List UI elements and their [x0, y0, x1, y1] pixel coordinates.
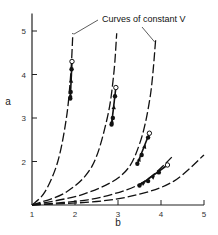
- y-tick-label: 3: [22, 114, 27, 123]
- x-tick-label: 2: [73, 210, 78, 219]
- y-tick-label: 2: [22, 158, 27, 167]
- annotation-text: Curves of constant V: [102, 14, 186, 24]
- filled-point: [146, 179, 150, 183]
- trajectories: [68, 59, 170, 187]
- x-axis-label: b: [115, 217, 121, 228]
- arrow-icon: [69, 79, 73, 83]
- constant-v-curve-2: [32, 33, 117, 205]
- y-tick-label: 5: [22, 27, 27, 36]
- filled-point: [157, 170, 161, 174]
- y-axis-label: a: [5, 96, 11, 107]
- annotation: Curves of constant V: [74, 14, 186, 42]
- filled-point: [137, 183, 141, 187]
- y-tick-label: 4: [22, 71, 27, 80]
- x-tick-label: 4: [159, 210, 164, 219]
- constant-v-curve-4: [32, 157, 172, 205]
- open-point: [165, 163, 169, 167]
- open-point: [147, 131, 151, 135]
- filled-point: [139, 153, 143, 157]
- annotation-pointer: [74, 20, 98, 34]
- x-tick-label: 5: [202, 210, 207, 219]
- open-point: [114, 85, 118, 89]
- x-tick-label: 1: [30, 210, 35, 219]
- open-point: [70, 59, 74, 63]
- constant-v-curve-1: [32, 33, 73, 205]
- chart: 234512345ba Curves of constant V: [0, 0, 218, 235]
- filled-point: [111, 116, 115, 120]
- curves: [32, 33, 204, 205]
- filled-point: [135, 161, 139, 165]
- annotation-pointer: [142, 27, 155, 42]
- arrow-icon: [112, 105, 116, 109]
- filled-point: [146, 135, 150, 139]
- filled-point: [69, 67, 73, 71]
- filled-point: [113, 94, 117, 98]
